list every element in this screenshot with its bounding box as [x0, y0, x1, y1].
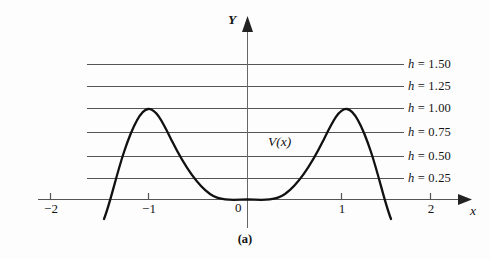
x-tick-label--1: −1 [138, 201, 160, 217]
curve-label: V(x) [266, 134, 293, 150]
level-label-0.75: h = 0.75 [408, 125, 451, 140]
y-axis-arrowhead [242, 16, 253, 32]
x-tick-label-1: 1 [334, 201, 350, 217]
level-symbol: h [408, 149, 414, 163]
level-label-0.50: h = 0.50 [408, 149, 451, 164]
potential-well-figure: h = 1.50 h = 1.25 h = 1.00 h = 0.75 h = … [0, 0, 490, 259]
x-tick-label-2: 2 [423, 201, 439, 217]
level-symbol: h [408, 57, 414, 71]
level-symbol: h [408, 101, 414, 115]
y-axis [242, 16, 253, 228]
x-axis-label: x [470, 203, 476, 219]
y-axis-label: Y [228, 12, 236, 28]
level-value: = 0.25 [418, 171, 451, 185]
level-label-1.50: h = 1.50 [408, 57, 451, 72]
level-value: = 1.00 [418, 101, 451, 115]
level-value: = 0.75 [418, 125, 451, 139]
origin-label: 0 [235, 200, 242, 216]
panel-caption: (a) [0, 232, 490, 247]
level-value: = 1.50 [418, 57, 451, 71]
level-lines [87, 64, 404, 178]
level-value: = 0.50 [418, 149, 451, 163]
level-symbol: h [408, 79, 414, 93]
level-label-1.00: h = 1.00 [408, 101, 451, 116]
x-tick-label--2: −2 [40, 201, 62, 217]
level-symbol: h [408, 171, 414, 185]
level-symbol: h [408, 125, 414, 139]
level-label-1.25: h = 1.25 [408, 79, 451, 94]
level-value: = 1.25 [418, 79, 451, 93]
level-label-0.25: h = 0.25 [408, 171, 451, 186]
